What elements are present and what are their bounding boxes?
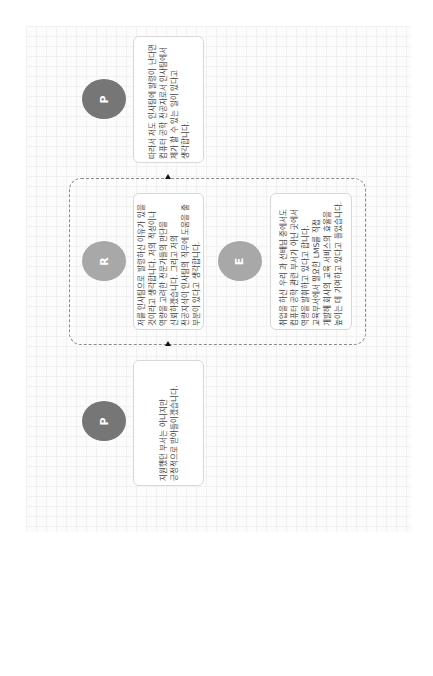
reason-circle: R (82, 241, 126, 281)
point-text-bottom: 지원했던 부서는 아니지만 긍정적으로 받아들이겠습니다. (158, 365, 180, 481)
example-box: 취업을 하신 우리 과 선배님 중에서도 컴퓨터 공학 관련 부서가 아닌 곳에… (270, 193, 352, 330)
example-circle: E (218, 241, 262, 281)
point-text-top: 따라서 저도 인사팀에 발령이 난다면 컴퓨터 공학 전공자로서 인사팀에서 제… (147, 41, 191, 159)
reason-text: 저를 인사팀으로 발령하신 이유가 있을 것이라고 생각합니다. 저의 적성이나… (136, 198, 202, 326)
reason-box: 저를 인사팀으로 발령하신 이유가 있을 것이라고 생각합니다. 저의 적성이나… (133, 193, 204, 330)
point-circle-top: P (82, 79, 126, 119)
point-label-top: P (98, 95, 111, 103)
point-circle-bottom: P (82, 401, 126, 441)
point-box-bottom: 지원했던 부서는 아니지만 긍정적으로 받아들이겠습니다. (133, 360, 204, 486)
reason-label: R (97, 257, 110, 265)
example-text: 취업을 하신 우리 과 선배님 중에서도 컴퓨터 공학 관련 부서가 아닌 곳에… (278, 198, 344, 326)
point-box-top: 따라서 저도 인사팀에 발령이 난다면 컴퓨터 공학 전공자로서 인사팀에서 제… (133, 36, 204, 163)
arrow-up-bottom (165, 341, 171, 346)
point-label-bottom: P (98, 417, 111, 425)
arrow-up-top (165, 174, 171, 179)
example-label: E (233, 257, 246, 265)
